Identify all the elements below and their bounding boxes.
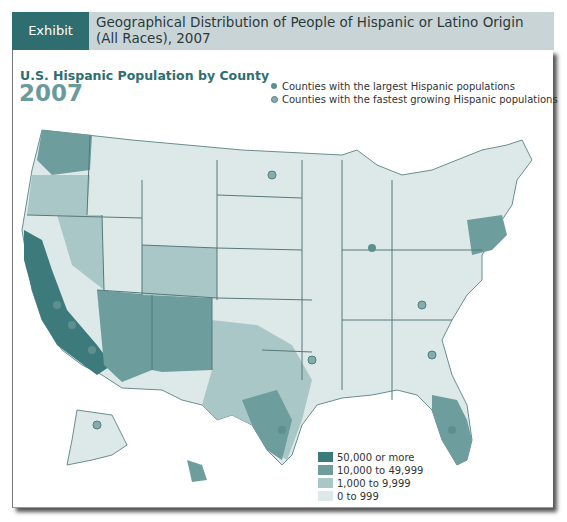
region-new-mexico bbox=[152, 295, 212, 372]
marker-legend: Counties with the largest Hispanic popul… bbox=[270, 80, 558, 106]
exhibit-title: Geographical Distribution of People of H… bbox=[96, 14, 546, 46]
fastest-marker bbox=[418, 301, 426, 309]
swatch-0-999 bbox=[318, 491, 333, 501]
largest-marker bbox=[368, 244, 376, 252]
region-washington bbox=[37, 130, 92, 175]
exhibit-header: Exhibit 7.13 Geographical Distribution o… bbox=[12, 12, 554, 50]
largest-marker bbox=[88, 346, 96, 354]
swatch-50000-plus bbox=[318, 452, 333, 462]
legend-largest-label: Counties with the largest Hispanic popul… bbox=[282, 81, 515, 92]
swatch-1000-9999 bbox=[318, 478, 333, 488]
legend-row: 10,000 to 49,999 bbox=[318, 464, 423, 477]
legend-row: 0 to 999 bbox=[318, 490, 423, 503]
largest-marker bbox=[278, 426, 286, 434]
legend-largest: Counties with the largest Hispanic popul… bbox=[270, 80, 558, 93]
ring-dot-icon bbox=[271, 96, 278, 103]
largest-marker bbox=[68, 321, 76, 329]
largest-marker bbox=[53, 301, 61, 309]
region-oregon bbox=[27, 175, 90, 215]
solid-dot-icon bbox=[271, 83, 277, 89]
legend-fastest-label: Counties with the fastest growing Hispan… bbox=[282, 94, 558, 105]
legend-label: 50,000 or more bbox=[337, 452, 414, 463]
legend-row: 50,000 or more bbox=[318, 451, 423, 464]
us-county-map bbox=[12, 120, 557, 505]
fastest-marker bbox=[428, 351, 436, 359]
alaska bbox=[67, 410, 127, 465]
fastest-marker bbox=[268, 171, 276, 179]
fastest-marker bbox=[308, 356, 316, 364]
population-legend: 50,000 or more 10,000 to 49,999 1,000 to… bbox=[318, 451, 423, 503]
legend-label: 0 to 999 bbox=[337, 491, 379, 502]
legend-row: 1,000 to 9,999 bbox=[318, 477, 423, 490]
map-year: 2007 bbox=[19, 80, 83, 106]
legend-fastest: Counties with the fastest growing Hispan… bbox=[270, 93, 558, 106]
region-northeast bbox=[467, 215, 507, 255]
hawaii bbox=[187, 460, 207, 482]
fastest-marker bbox=[93, 421, 101, 429]
legend-label: 1,000 to 9,999 bbox=[337, 478, 411, 489]
legend-label: 10,000 to 49,999 bbox=[337, 465, 423, 476]
largest-marker bbox=[448, 426, 456, 434]
region-colorado bbox=[142, 245, 217, 298]
exhibit-label: Exhibit 7.13 bbox=[12, 12, 89, 50]
swatch-10000-49999 bbox=[318, 465, 333, 475]
